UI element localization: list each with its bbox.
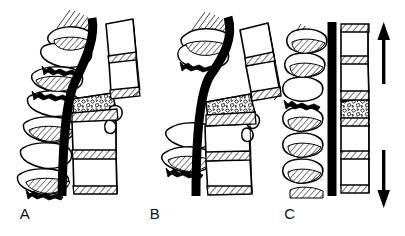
panel-label-b: B: [150, 205, 161, 222]
figure-canvas: A: [0, 0, 405, 236]
spine-fracture-figure: A: [0, 0, 405, 236]
panel-label-a: A: [20, 205, 31, 222]
panel-label-c: C: [284, 205, 295, 222]
